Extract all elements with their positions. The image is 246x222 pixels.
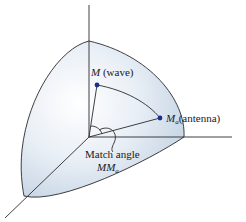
label-match-angle-symbol: MMa [97,161,119,177]
label-Ma-antenna: Ma(antenna) [166,112,220,128]
label-M-wave: M (wave) [91,66,133,78]
label-M-symbol: M [91,66,100,78]
label-M-description: (wave) [103,66,134,78]
point-M [95,83,100,88]
label-Ma-description: (antenna) [179,112,221,124]
label-Ma-symbol: M [166,112,175,124]
label-match-angle: Match angle [85,148,140,160]
point-Ma [158,116,163,121]
sphere-diagram [0,0,246,222]
label-MM-symbol: MM [97,161,115,173]
label-match-angle-text: Match angle [85,148,140,160]
label-MM-subscript: a [115,167,119,175]
